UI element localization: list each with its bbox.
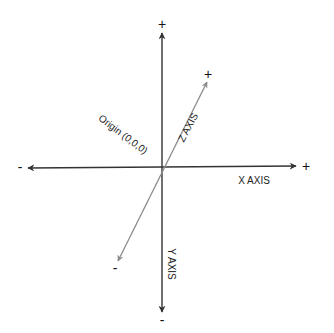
z-axis-label: Z AXIS	[176, 111, 200, 144]
origin-label: Origin (0,0,0)	[96, 112, 149, 156]
x-positive-sign: +	[302, 158, 310, 174]
y-positive-sign: +	[158, 16, 166, 32]
axes-svg: + - - + + - X AXIS Y AXIS Z AXIS Origin …	[0, 0, 334, 333]
x-axis-label: X AXIS	[238, 175, 270, 186]
y-negative-sign: -	[160, 312, 165, 328]
z-negative-sign: -	[113, 260, 118, 276]
x-negative-sign: -	[18, 159, 23, 175]
y-axis-label: Y AXIS	[166, 248, 177, 280]
z-positive-sign: +	[204, 66, 212, 82]
x-axis-line	[28, 166, 296, 168]
coordinate-axes-diagram: + - - + + - X AXIS Y AXIS Z AXIS Origin …	[0, 0, 334, 333]
